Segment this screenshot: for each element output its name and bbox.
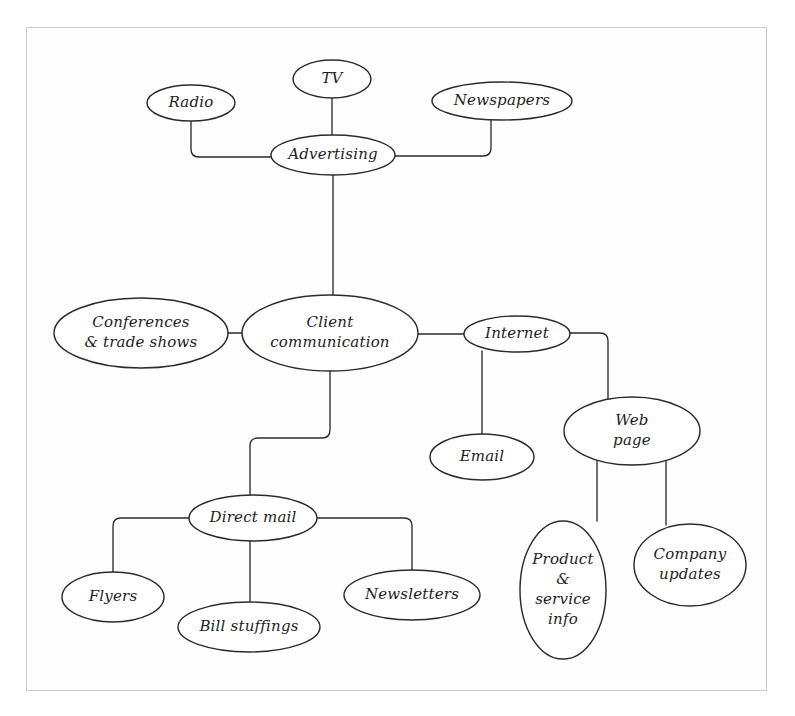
node-newsletters[interactable]: Newsletters [344,570,480,620]
node-email[interactable]: Email [430,434,534,480]
node-label-newspapers: Newspapers [453,91,551,109]
node-label-direct-mail: Direct mail [208,508,296,526]
nodes-layer: TVRadioNewspapersAdvertisingConferences&… [54,60,746,659]
node-bill-stuffings[interactable]: Bill stuffings [178,602,320,652]
connector-advertising-newspapers [395,120,491,156]
node-label-company-updates: updates [659,565,721,583]
connector-internet-webpage [570,333,608,400]
node-label-email: Email [459,447,505,465]
node-product-service-info[interactable]: Product&serviceinfo [520,521,606,659]
connector-directmail-newsletters [317,518,412,570]
node-conferences[interactable]: Conferences& trade shows [54,298,228,368]
connector-client-directmail [250,371,330,495]
node-label-web-page: page [613,431,651,449]
node-label-tv: TV [321,69,344,87]
node-label-internet: Internet [484,324,550,342]
node-label-web-page: Web [615,411,648,429]
node-web-page[interactable]: Webpage [564,397,700,465]
node-advertising[interactable]: Advertising [271,135,395,175]
node-label-product-service-info: service [535,590,591,608]
node-label-conferences: Conferences [92,313,190,331]
node-label-client-communication: Client [307,313,355,331]
node-label-newsletters: Newsletters [364,585,459,603]
connector-advertising-radio [191,121,271,157]
node-label-bill-stuffings: Bill stuffings [198,617,298,635]
node-internet[interactable]: Internet [464,316,570,352]
node-label-radio: Radio [167,93,213,111]
node-label-advertising: Advertising [286,145,378,163]
node-label-company-updates: Company [654,545,727,563]
node-company-updates[interactable]: Companyupdates [634,524,746,606]
node-label-client-communication: communication [270,333,389,351]
node-tv[interactable]: TV [293,60,371,98]
node-label-product-service-info: & [556,570,570,588]
node-label-product-service-info: info [548,610,578,628]
node-newspapers[interactable]: Newspapers [432,82,572,120]
mind-map-svg: TVRadioNewspapersAdvertisingConferences&… [0,0,795,716]
node-label-flyers: Flyers [88,587,138,605]
node-client-communication[interactable]: Clientcommunication [242,295,418,371]
node-direct-mail[interactable]: Direct mail [189,495,317,541]
node-flyers[interactable]: Flyers [62,572,164,622]
connector-directmail-flyers [113,518,189,572]
node-label-conferences: & trade shows [84,333,197,351]
node-label-product-service-info: Product [531,550,594,568]
diagram-canvas: TVRadioNewspapersAdvertisingConferences&… [0,0,795,716]
node-radio[interactable]: Radio [147,85,235,121]
